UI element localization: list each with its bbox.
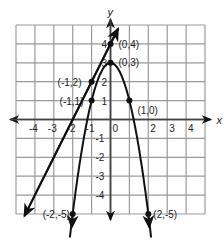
point-label: (1,0) — [137, 105, 158, 116]
y-tick-label: 4 — [102, 39, 108, 50]
line-series-arrow — [25, 29, 119, 216]
data-point — [108, 41, 114, 47]
y-tick-label: -2 — [96, 152, 105, 163]
y-tick-label: -3 — [96, 171, 105, 182]
y-axis-label: y — [107, 6, 115, 18]
point-label: (2,-5) — [153, 209, 177, 220]
x-tick-label: 4 — [188, 123, 194, 134]
data-point — [145, 211, 151, 217]
point-label: (0,3) — [119, 57, 140, 68]
y-tick-label: -4 — [96, 190, 105, 201]
point-label: (-1,1) — [60, 96, 84, 107]
point-label: (-1,2) — [58, 77, 82, 88]
data-point — [70, 211, 76, 217]
coordinate-plane: xy-4-3-2-102344321-1-2-3-4(0,4)(0,3)(-1,… — [0, 0, 224, 240]
data-point — [89, 98, 95, 104]
x-tick-label: 0 — [113, 123, 119, 134]
x-tick-label: -3 — [48, 123, 57, 134]
data-point — [89, 79, 95, 85]
x-axis-label: x — [215, 114, 222, 126]
y-tick-label: -1 — [96, 133, 105, 144]
point-label: (-2,-5) — [43, 209, 70, 220]
data-point — [108, 60, 114, 66]
x-tick-label: 3 — [169, 123, 175, 134]
x-tick-label: -4 — [29, 123, 38, 134]
y-tick-label: 1 — [102, 96, 108, 107]
data-point — [126, 98, 132, 104]
x-tick-label: 2 — [150, 123, 156, 134]
point-label: (0,4) — [119, 39, 140, 50]
y-tick-label: 2 — [102, 77, 108, 88]
